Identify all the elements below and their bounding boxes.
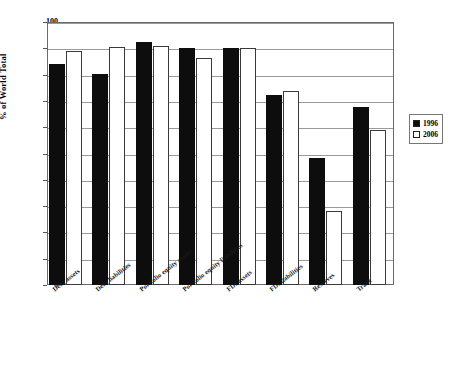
chart-legend: 1996 2006 (409, 114, 443, 144)
legend-item-1996: 1996 (413, 118, 438, 129)
bar-group (351, 22, 394, 285)
bar-1996 (266, 95, 282, 285)
bar-2006 (370, 130, 386, 285)
bar-1996 (92, 74, 108, 285)
y-tick-mark (43, 285, 47, 286)
bar-group (307, 22, 350, 285)
bar-2006 (240, 48, 256, 285)
bar-2006 (66, 51, 82, 285)
hollow-square-icon (413, 131, 420, 138)
bar-group (177, 22, 220, 285)
bar-1996 (309, 158, 325, 285)
x-axis-labels: Debt assetsDebt liabilitiesPortfolio equ… (47, 287, 394, 372)
bar-2006 (109, 47, 125, 285)
bar-chart: % of World Total 0102030405060708090100 … (0, 0, 454, 374)
bar-1996 (353, 107, 369, 285)
legend-label: 2006 (423, 131, 438, 139)
bar-group (47, 22, 90, 285)
bar-1996 (49, 64, 65, 285)
bar-2006 (283, 91, 299, 285)
bar-group (134, 22, 177, 285)
bar-group (90, 22, 133, 285)
bar-2006 (196, 58, 212, 285)
filled-square-icon (413, 120, 420, 127)
bar-2006 (153, 46, 169, 285)
bars-layer (47, 22, 394, 285)
legend-label: 1996 (423, 120, 438, 128)
legend-item-2006: 2006 (413, 129, 438, 140)
bar-1996 (136, 42, 152, 285)
y-axis-title: % of World Total (0, 0, 8, 120)
bar-group (264, 22, 307, 285)
